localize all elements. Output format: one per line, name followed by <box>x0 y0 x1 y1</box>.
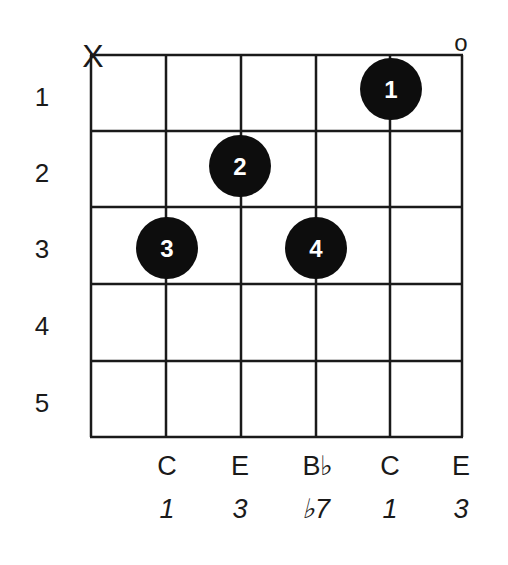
muted-string-marker: X <box>82 38 103 74</box>
finger-dot-2: 2 <box>209 135 271 197</box>
note-name: E <box>452 451 470 481</box>
finger-number: 2 <box>233 153 246 180</box>
finger-dot-1: 1 <box>360 58 422 120</box>
fret-number-2: 2 <box>35 158 49 188</box>
fret-number-4: 4 <box>35 311 49 341</box>
finger-number: 4 <box>309 235 323 262</box>
note-name: C <box>157 451 177 481</box>
interval-label: 1 <box>159 494 174 524</box>
finger-number: 3 <box>160 235 173 262</box>
note-name: C <box>380 451 400 481</box>
open-string-marker: o <box>454 29 467 56</box>
interval-label: 3 <box>232 494 247 524</box>
interval-label: 1 <box>382 494 397 524</box>
interval-label: ♭7 <box>302 494 331 524</box>
finger-number: 1 <box>384 76 397 103</box>
interval-label: 3 <box>453 494 468 524</box>
finger-dot-3: 3 <box>136 217 198 279</box>
finger-dot-4: 4 <box>285 217 347 279</box>
chord-diagram: X o 1 2 3 4 5 1 2 3 4 C E B♭ C E 1 3 ♭7 … <box>0 0 508 565</box>
fret-number-5: 5 <box>35 388 49 418</box>
note-names-row: C E B♭ C E <box>157 451 470 481</box>
note-name: B♭ <box>302 451 333 481</box>
note-name: E <box>231 451 249 481</box>
fret-number-3: 3 <box>35 234 49 264</box>
fret-numbers: 1 2 3 4 5 <box>35 82 49 418</box>
intervals-row: 1 3 ♭7 1 3 <box>159 494 468 524</box>
fret-number-1: 1 <box>35 82 49 112</box>
